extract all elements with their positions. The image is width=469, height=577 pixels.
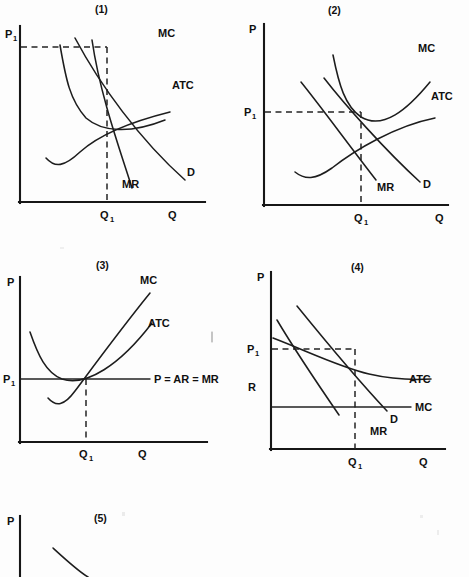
panel-3-quantity-label: Q (79, 448, 88, 460)
panel-1-mc-label: MC (158, 27, 175, 39)
panel-4-number: (4) (351, 261, 364, 273)
panel-2-d-label: D (423, 178, 431, 190)
scan-speckle (420, 515, 423, 518)
panel-4-y-axis-label: P (257, 271, 264, 283)
panel-3-x-axis-label: Q (138, 448, 147, 460)
panel-3-atc-curve (30, 323, 152, 381)
panel-1-mr-label: MR (122, 178, 139, 190)
panel-2: (2) P P 1 MC ATC MR D Q 1 Q (235, 0, 469, 235)
panel-1: (1) P 1 MC ATC MR D Q 1 Q (0, 0, 235, 235)
panel-3-mc-label: MC (140, 274, 157, 286)
panel-3-price-label: P (3, 373, 10, 385)
panel-1-number: (1) (95, 3, 108, 15)
panel-5-y-axis-label: P (7, 515, 14, 527)
panel-4-mr-curve (277, 320, 339, 415)
panel-2-quantity-label-subscript: 1 (364, 218, 368, 227)
panel-4-quantity-label-subscript: 1 (358, 462, 362, 471)
panel-2-mc-label: MC (418, 42, 435, 54)
panel-3-mc-curve (48, 293, 150, 404)
panel-2-number: (2) (328, 4, 341, 16)
panel-5: (5) P (0, 495, 240, 577)
panel-2-x-axis-label: Q (435, 212, 444, 224)
panel-4-atc-curve (273, 338, 431, 379)
panel-4-mc-label: MC (415, 401, 432, 413)
panel-5-number: (5) (94, 512, 107, 524)
panel-4-extra-label: R (248, 381, 256, 393)
panel-5-demand-curve (53, 548, 88, 577)
panel-3-quantity-label-subscript: 1 (89, 454, 93, 463)
panel-4-d-label: D (390, 413, 398, 425)
panel-2-mc-curve (333, 55, 430, 121)
panel-3: (3) P P 1 P = AR = MR MC ATC Q 1 Q (0, 255, 240, 485)
panel-1-quantity-label-subscript: 1 (110, 215, 114, 224)
figure-page: (1) P 1 MC ATC MR D Q 1 Q (2) P (0, 0, 469, 577)
panel-4-mr-label: MR (370, 425, 387, 437)
panel-4-demand-curve (297, 306, 387, 411)
panel-2-quantity-label: Q (354, 212, 363, 224)
panel-2-mr-label: MR (377, 181, 394, 193)
panel-3-y-axis-label: P (7, 276, 14, 288)
panel-4-atc-label: ATC (409, 373, 431, 385)
panel-2-price-label: P (244, 106, 251, 118)
panel-4: (4) P P 1 R ATC MC MR D Q 1 Q (235, 255, 469, 485)
panel-2-atc-label: ATC (431, 90, 453, 102)
panel-3-number: (3) (96, 259, 109, 271)
panel-1-mr-curve (92, 40, 132, 188)
panel-1-quantity-label: Q (100, 209, 109, 221)
panel-1-demand-curve (75, 38, 185, 180)
panel-1-atc-curve (46, 112, 170, 165)
panel-3-atc-label: ATC (148, 317, 170, 329)
panel-1-x-axis-label: Q (168, 209, 177, 221)
panel-4-quantity-label: Q (348, 456, 357, 468)
panel-4-price-label: P (247, 343, 254, 355)
panel-1-y-axis-label: P (5, 28, 12, 40)
panel-1-atc-label: ATC (172, 79, 194, 91)
panel-1-d-label: D (187, 166, 195, 178)
panel-3-demand-label: P = AR = MR (154, 373, 219, 385)
scan-speckle (60, 247, 64, 249)
panel-1-y-axis-label-subscript: 1 (13, 34, 17, 43)
panel-3-price-label-subscript: 1 (11, 379, 15, 388)
scan-speckle (122, 512, 125, 516)
panel-2-y-axis-label: P (249, 23, 256, 35)
panel-4-x-axis-label: Q (419, 456, 428, 468)
panel-1-mc-curve (60, 45, 165, 130)
scan-speckle (437, 530, 439, 535)
panel-4-price-label-subscript: 1 (255, 349, 259, 358)
panel-2-price-label-subscript: 1 (252, 112, 256, 121)
